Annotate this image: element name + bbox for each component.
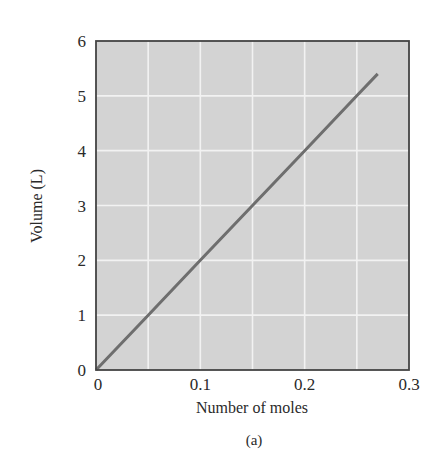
chart: 00.10.20.3 0123456 Number of moles Volum…	[0, 0, 447, 463]
y-tick-label: 5	[78, 87, 87, 106]
y-tick-label: 0	[78, 361, 87, 380]
y-tick-label: 4	[78, 142, 87, 161]
x-tick-label: 0.3	[398, 375, 419, 394]
y-tick-label: 2	[78, 251, 87, 270]
y-axis-label: Volume (L)	[28, 169, 46, 243]
y-tick-label: 1	[78, 306, 87, 325]
y-tick-labels: 0123456	[78, 32, 87, 380]
x-tick-label: 0.1	[190, 375, 211, 394]
y-tick-label: 3	[78, 197, 87, 216]
x-axis-label: Number of moles	[196, 399, 308, 416]
x-tick-label: 0.2	[294, 375, 315, 394]
figure-caption: (a)	[246, 432, 263, 449]
x-tick-label: 0	[94, 375, 103, 394]
y-tick-label: 6	[78, 32, 87, 51]
x-tick-labels: 00.10.20.3	[94, 375, 420, 394]
